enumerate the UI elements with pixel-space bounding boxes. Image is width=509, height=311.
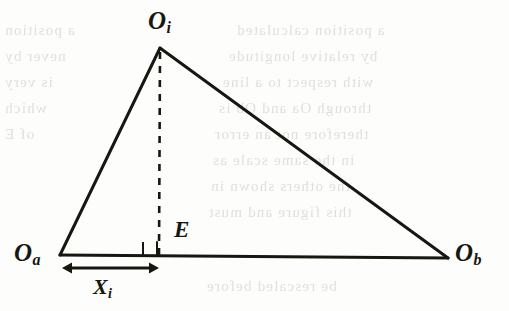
altitude-dashed-line: [159, 52, 160, 256]
figure-canvas: a position calculatedby relative longitu…: [0, 0, 509, 311]
label-base-left-oa-subscript: a: [32, 251, 40, 268]
triangle-side-hypotenuse: [160, 48, 448, 258]
label-distance-xi: Xi: [93, 276, 112, 298]
label-distance-xi-base: X: [93, 274, 108, 299]
label-altitude-foot-e: E: [174, 218, 189, 241]
label-distance-xi-subscript: i: [108, 285, 112, 301]
label-base-left-oa: Oa: [14, 240, 40, 265]
label-altitude-foot-e-base: E: [174, 217, 189, 242]
label-base-left-oa-base: O: [14, 239, 32, 266]
dimension-arrowhead-left: [62, 263, 72, 274]
dimension-arrowhead-right: [149, 263, 159, 274]
triangle-diagram-svg: [0, 0, 509, 311]
triangle-base: [60, 255, 448, 258]
label-base-right-ob-subscript: b: [473, 251, 481, 268]
label-base-right-ob: Ob: [455, 240, 481, 265]
triangle-side-left: [60, 48, 160, 255]
right-angle-marker: [143, 242, 157, 256]
label-apex-oi-base: O: [148, 7, 166, 34]
label-apex-oi-subscript: i: [166, 19, 170, 36]
label-base-right-ob-base: O: [455, 239, 473, 266]
label-apex-oi: Oi: [148, 8, 171, 33]
